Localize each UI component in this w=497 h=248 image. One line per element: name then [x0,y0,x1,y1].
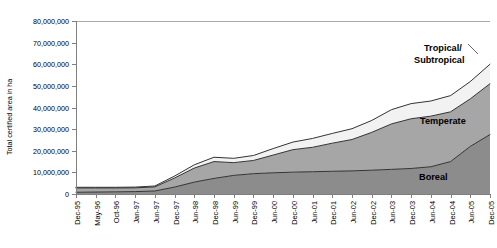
x-tick-label: Jun-05 [467,201,476,224]
y-tick-label: 40,000,000 [33,104,69,113]
series-label-tropical-subtropical-line2: Subtropical [414,55,465,65]
x-tick-label: Dec-95 [73,201,82,225]
y-tick-label: 80,000,000 [33,17,69,26]
series-label-temperate: Temperate [420,116,466,126]
x-tick-label: Dec-01 [329,201,338,225]
y-tick-label: 30,000,000 [33,125,69,134]
x-tick-label: Dec-00 [290,201,299,225]
x-tick-label: Dec-02 [369,201,378,225]
x-tick-label: Jun-99 [231,201,240,224]
y-tick-label: 50,000,000 [33,82,69,91]
series-label-boreal: Boreal [419,172,448,182]
x-tick-label: Dec-03 [408,201,417,225]
y-tick-label: 60,000,000 [33,60,69,69]
y-tick-label: 70,000,000 [33,39,69,48]
x-tick-label: Jun-98 [191,201,200,224]
x-tick-label: Dec-04 [448,201,457,225]
x-tick-label: Jun-02 [349,201,358,224]
x-axis-ticks: Dec-95May-96Oct-96Jan-97Jun-97Dec-97Jun-… [73,194,496,226]
chart-container: 010,000,00020,000,00030,000,00040,000,00… [0,0,497,248]
x-tick-label: Dec-98 [211,201,220,225]
x-tick-label: May-96 [93,201,102,226]
x-tick-label: Jun-04 [428,201,437,224]
x-tick-label: Jan-97 [132,201,141,224]
x-tick-label: Jun-97 [152,201,161,224]
x-tick-label: Jun-01 [310,201,319,224]
x-tick-label: Dec-97 [172,201,181,225]
y-axis-ticks: 010,000,00020,000,00030,000,00040,000,00… [33,17,76,199]
stacked-area-chart: 010,000,00020,000,00030,000,00040,000,00… [0,0,497,248]
x-tick-label: Dec-05 [487,201,496,225]
series-label-tropical-subtropical-line1: Tropical/ [424,43,462,53]
x-tick-label: Dec-99 [250,201,259,225]
y-tick-label: 10,000,000 [33,168,69,177]
y-tick-label: 0 [65,190,69,199]
x-tick-label: Oct-96 [112,201,121,223]
y-tick-label: 20,000,000 [33,147,69,156]
x-tick-label: Jun-03 [388,201,397,224]
y-axis-title: Total certified area in ha [5,79,14,155]
x-tick-label: Jun-00 [270,201,279,224]
